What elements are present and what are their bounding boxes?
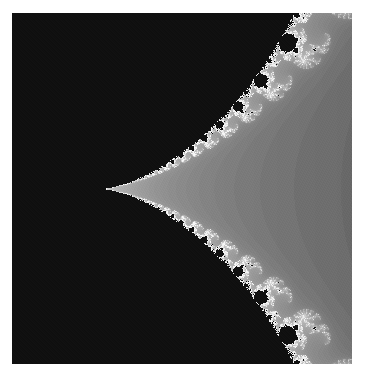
fractal-image: Grayscale fractal: black Mandelbrot set … (12, 13, 352, 364)
mandelbrot-canvas (12, 13, 352, 364)
